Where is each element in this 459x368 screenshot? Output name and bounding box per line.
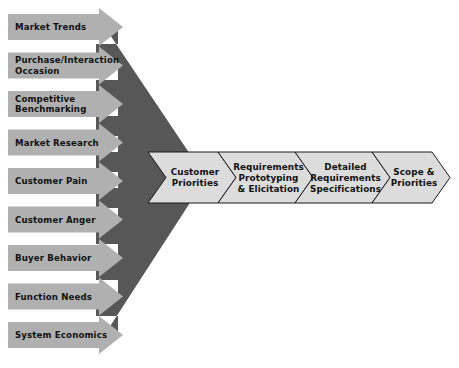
stage-label: CustomerPriorities: [171, 167, 220, 188]
input-arrow-label: Function Needs: [15, 291, 92, 301]
input-arrow-group: Market TrendsPurchase/InteractionOccasio…: [8, 8, 123, 354]
stage-detailed-requirements-specifications: DetailedRequirementsSpecifications: [295, 152, 390, 203]
stage-label: Scope &Priorities: [391, 167, 438, 188]
input-arrow-label: System Economics: [15, 330, 107, 340]
funnel-diagram: Market TrendsPurchase/InteractionOccasio…: [0, 0, 459, 368]
stage-label: RequirementsPrototyping& Elicitation: [233, 162, 304, 194]
stage-chevron-group: CustomerPrioritiesRequirementsPrototypin…: [148, 152, 450, 203]
input-arrow-label: Buyer Behavior: [15, 253, 92, 263]
diagram-canvas: Market TrendsPurchase/InteractionOccasio…: [0, 0, 459, 368]
input-arrow-label: Customer Anger: [15, 214, 96, 224]
input-arrow-label: Market Trends: [15, 22, 86, 32]
input-arrow-label: Market Research: [15, 137, 99, 147]
input-arrow-label: Customer Pain: [15, 176, 87, 186]
